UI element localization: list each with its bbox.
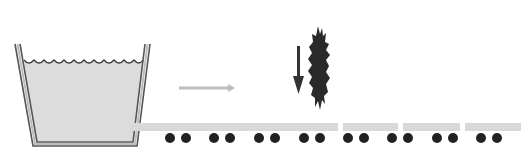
- roller-dot: [476, 133, 486, 143]
- tank: [15, 44, 150, 146]
- roller-dot: [343, 133, 353, 143]
- roller-dot: [165, 133, 175, 143]
- roller-dot: [315, 133, 325, 143]
- roller-dot: [299, 133, 309, 143]
- strip-segment: [465, 123, 521, 131]
- strip-segment: [403, 123, 460, 131]
- roller-dot: [254, 133, 264, 143]
- strip: [130, 123, 521, 131]
- roller-dot: [403, 133, 413, 143]
- down-arrow-icon: [293, 46, 304, 94]
- flow-arrow-right-icon: [179, 84, 235, 92]
- process-diagram: [0, 0, 532, 161]
- roller-dot: [270, 133, 280, 143]
- roller-dot: [225, 133, 235, 143]
- strip-segment: [343, 123, 398, 131]
- roller-dot: [181, 133, 191, 143]
- roller-dot: [209, 133, 219, 143]
- roller-dot: [387, 133, 397, 143]
- cutter-blade-icon: [308, 26, 330, 110]
- strip-segment: [130, 123, 338, 131]
- tank-liquid: [24, 60, 143, 141]
- roller-dot: [448, 133, 458, 143]
- roller-dot: [492, 133, 502, 143]
- rollers: [165, 133, 502, 143]
- roller-dot: [359, 133, 369, 143]
- roller-dot: [432, 133, 442, 143]
